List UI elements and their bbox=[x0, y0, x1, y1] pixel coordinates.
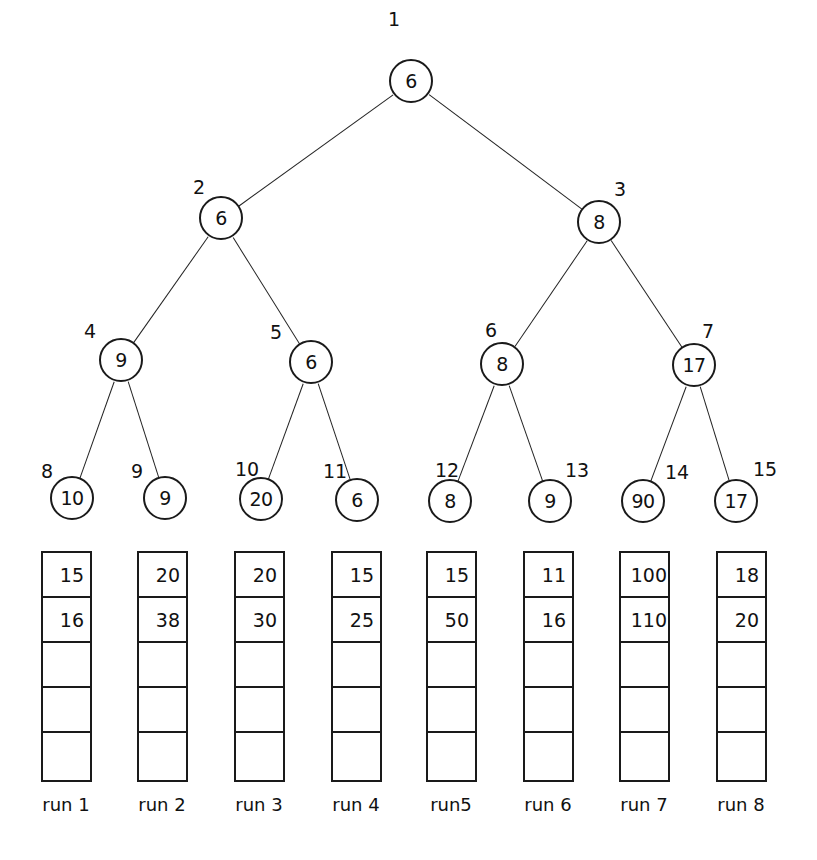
run-cell bbox=[525, 733, 572, 780]
run-buffer-2: 2038 bbox=[137, 551, 188, 782]
node-index-label: 13 bbox=[565, 461, 589, 480]
tree-node-7: 17 bbox=[672, 343, 716, 387]
node-value: 9 bbox=[159, 487, 171, 509]
node-index-label: 3 bbox=[614, 180, 626, 199]
tournament-tree-diagram: 6162839465861771089920106118129139014171… bbox=[0, 0, 817, 860]
tree-node-14: 90 bbox=[621, 479, 665, 523]
tree-edge bbox=[79, 381, 115, 478]
run-cell: 15 bbox=[333, 553, 380, 598]
run-cell bbox=[621, 733, 668, 780]
run-cell bbox=[43, 688, 90, 733]
tree-node-15: 17 bbox=[714, 479, 758, 523]
run-label: run 3 bbox=[219, 794, 299, 815]
run-cell: 15 bbox=[43, 553, 90, 598]
run-cell bbox=[139, 733, 186, 780]
tree-edge bbox=[268, 383, 304, 479]
node-value: 90 bbox=[631, 490, 654, 512]
node-value: 9 bbox=[544, 490, 556, 512]
node-index-label: 7 bbox=[702, 322, 714, 341]
node-index-label: 5 bbox=[270, 323, 282, 342]
tree-node-12: 8 bbox=[428, 479, 472, 523]
node-index-label: 14 bbox=[665, 463, 689, 482]
run-cell bbox=[428, 643, 475, 688]
run-cell bbox=[139, 688, 186, 733]
node-value: 17 bbox=[682, 354, 705, 376]
run-cell bbox=[43, 733, 90, 780]
run-cell: 20 bbox=[139, 553, 186, 598]
tree-edge bbox=[509, 385, 544, 481]
run-cell bbox=[621, 643, 668, 688]
node-index-label: 11 bbox=[323, 462, 347, 481]
run-buffer-6: 1116 bbox=[523, 551, 574, 782]
node-value: 6 bbox=[215, 207, 227, 229]
node-index-label: 9 bbox=[131, 462, 143, 481]
run-cell bbox=[139, 643, 186, 688]
run-cell: 100 bbox=[621, 553, 668, 598]
run-cell: 18 bbox=[718, 553, 765, 598]
run-buffer-5: 1550 bbox=[426, 551, 477, 782]
tree-edge bbox=[457, 385, 495, 481]
run-cell: 16 bbox=[525, 598, 572, 643]
run-cell: 38 bbox=[139, 598, 186, 643]
run-cell: 110 bbox=[621, 598, 668, 643]
node-value: 9 bbox=[115, 349, 127, 371]
tree-node-3: 8 bbox=[577, 200, 621, 244]
run-cell bbox=[43, 643, 90, 688]
run-label: run 7 bbox=[604, 794, 684, 815]
run-cell: 16 bbox=[43, 598, 90, 643]
run-buffer-8: 1820 bbox=[716, 551, 767, 782]
tree-node-10: 20 bbox=[239, 477, 283, 521]
run-cell bbox=[525, 688, 572, 733]
run-buffer-3: 2030 bbox=[234, 551, 285, 782]
node-index-label: 4 bbox=[84, 322, 96, 341]
tree-node-2: 6 bbox=[199, 196, 243, 240]
run-cell: 50 bbox=[428, 598, 475, 643]
run-cell bbox=[718, 688, 765, 733]
run-cell bbox=[236, 733, 283, 780]
node-index-label: 6 bbox=[485, 321, 497, 340]
tree-node-6: 8 bbox=[480, 342, 524, 386]
tree-node-5: 6 bbox=[289, 340, 333, 384]
run-cell: 25 bbox=[333, 598, 380, 643]
run-label: run 1 bbox=[26, 794, 106, 815]
tree-node-9: 9 bbox=[143, 476, 187, 520]
node-value: 6 bbox=[351, 489, 363, 511]
node-value: 20 bbox=[249, 488, 272, 510]
tree-node-8: 10 bbox=[50, 476, 94, 520]
tree-node-4: 9 bbox=[99, 338, 143, 382]
tree-edge bbox=[238, 94, 393, 206]
run-buffer-7: 100110 bbox=[619, 551, 670, 782]
run-label: run 2 bbox=[122, 794, 202, 815]
run-cell bbox=[333, 643, 380, 688]
node-value: 6 bbox=[405, 70, 417, 92]
run-label: run5 bbox=[411, 794, 491, 815]
run-cell: 30 bbox=[236, 598, 283, 643]
tree-node-1: 6 bbox=[389, 59, 433, 103]
run-cell: 20 bbox=[236, 553, 283, 598]
run-cell bbox=[333, 688, 380, 733]
run-cell bbox=[428, 688, 475, 733]
tree-edge bbox=[428, 94, 582, 210]
run-buffer-1: 1516 bbox=[41, 551, 92, 782]
node-index-label: 10 bbox=[235, 460, 259, 479]
run-cell bbox=[236, 643, 283, 688]
node-index-label: 2 bbox=[193, 178, 205, 197]
run-label: run 6 bbox=[508, 794, 588, 815]
node-value: 8 bbox=[444, 490, 456, 512]
run-cell bbox=[333, 733, 380, 780]
node-value: 10 bbox=[60, 487, 83, 509]
run-label: run 4 bbox=[316, 794, 396, 815]
run-cell: 15 bbox=[428, 553, 475, 598]
node-value: 8 bbox=[593, 211, 605, 233]
run-cell bbox=[718, 733, 765, 780]
run-cell bbox=[621, 688, 668, 733]
node-value: 6 bbox=[305, 351, 317, 373]
node-index-label: 1 bbox=[388, 10, 400, 29]
tree-edge bbox=[232, 237, 300, 344]
node-value: 8 bbox=[496, 353, 508, 375]
node-index-label: 15 bbox=[753, 460, 777, 479]
node-value: 17 bbox=[724, 490, 747, 512]
run-cell: 20 bbox=[718, 598, 765, 643]
run-buffer-4: 1525 bbox=[331, 551, 382, 782]
tree-edge bbox=[700, 387, 730, 481]
